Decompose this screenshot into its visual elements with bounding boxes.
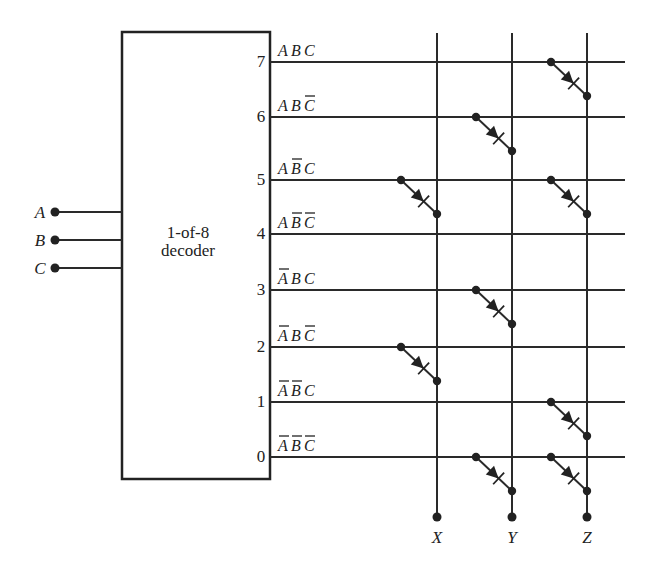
output-terminal-z xyxy=(583,513,592,522)
minterm-var: C xyxy=(304,270,315,287)
minterm-var: C xyxy=(304,382,315,399)
minterm-var: B xyxy=(291,97,301,114)
minterm-var: A xyxy=(277,97,288,114)
row-index-7: 7 xyxy=(257,52,266,71)
minterm-var: C xyxy=(304,437,315,454)
decoder-label-line1: 1-of-8 xyxy=(167,223,209,242)
minterm-label-4: ABC xyxy=(277,213,315,231)
output-label: X xyxy=(431,528,443,547)
row-index-0: 0 xyxy=(257,447,266,466)
input-terminal-a xyxy=(51,208,60,217)
row-index-6: 6 xyxy=(257,107,266,126)
minterm-var: A xyxy=(277,214,288,231)
minterm-var: A xyxy=(277,437,288,454)
minterm-var: C xyxy=(304,160,315,177)
row-index-5: 5 xyxy=(257,170,266,189)
diode-row7-z xyxy=(547,58,591,100)
minterm-var: B xyxy=(291,382,301,399)
minterm-var: B xyxy=(291,270,301,287)
decoder-label-line2: decoder xyxy=(161,241,215,260)
diode-matrix xyxy=(397,58,591,495)
minterm-var: B xyxy=(291,42,301,59)
row-index-1: 1 xyxy=(257,392,266,411)
minterm-label-1: ABC xyxy=(277,381,315,399)
minterm-var: A xyxy=(277,382,288,399)
rom-diagram: 1-of-8 decoder ABC 7ABC6ABC5ABC4ABC3ABC2… xyxy=(0,0,649,570)
diode-row6-y xyxy=(472,113,516,155)
diode-row1-z xyxy=(547,398,591,440)
input-label: B xyxy=(35,231,46,250)
minterm-label-6: ABC xyxy=(277,96,315,114)
row-index-3: 3 xyxy=(257,280,266,299)
minterm-var: B xyxy=(291,327,301,344)
input-terminal-b xyxy=(51,236,60,245)
minterm-var: C xyxy=(304,42,315,59)
minterm-label-7: ABC xyxy=(277,42,315,59)
minterm-var: C xyxy=(304,327,315,344)
input-terminal-c xyxy=(51,264,60,273)
row-index-4: 4 xyxy=(257,224,266,243)
minterm-label-2: ABC xyxy=(277,326,315,344)
minterm-label-5: ABC xyxy=(277,159,315,177)
minterm-label-3: ABC xyxy=(277,269,315,287)
diode-row5-x xyxy=(397,176,441,218)
minterm-var: C xyxy=(304,97,315,114)
input-label: C xyxy=(34,259,46,278)
output-label: Y xyxy=(507,528,518,547)
minterm-var: A xyxy=(277,327,288,344)
diode-row0-z xyxy=(547,453,591,495)
diode-row3-y xyxy=(472,286,516,328)
minterm-var: C xyxy=(304,214,315,231)
output-terminal-y xyxy=(508,513,517,522)
decoder-output-lines: 7ABC6ABC5ABC4ABC3ABC2ABC1ABC0ABC xyxy=(257,42,625,466)
minterm-var: A xyxy=(277,160,288,177)
minterm-var: B xyxy=(291,437,301,454)
diode-row2-x xyxy=(397,343,441,385)
minterm-var: B xyxy=(291,160,301,177)
minterm-label-0: ABC xyxy=(277,436,315,454)
input-lines: ABC xyxy=(34,203,122,278)
output-terminal-x xyxy=(433,513,442,522)
diode-row5-z xyxy=(547,176,591,218)
minterm-var: B xyxy=(291,214,301,231)
output-label: Z xyxy=(582,528,592,547)
minterm-var: A xyxy=(277,42,288,59)
diode-row0-y xyxy=(472,453,516,495)
input-label: A xyxy=(34,203,46,222)
minterm-var: A xyxy=(277,270,288,287)
row-index-2: 2 xyxy=(257,337,266,356)
